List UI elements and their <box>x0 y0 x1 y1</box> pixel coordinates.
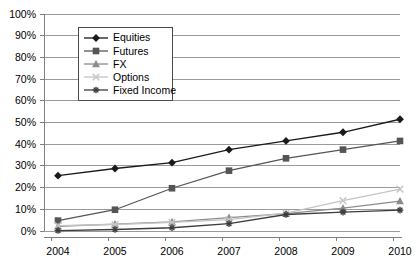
data-point-marker-square <box>397 138 404 145</box>
chart-plot-area <box>0 0 418 276</box>
y-axis-tick-label: 100% <box>0 9 36 20</box>
data-point-marker-asterisk <box>340 209 347 216</box>
y-axis-tick-label: 80% <box>0 52 36 63</box>
legend-marker-square-icon <box>83 45 109 57</box>
legend-item-equities[interactable]: Equities <box>83 31 167 44</box>
legend-label: Equities <box>113 32 150 43</box>
line-chart: 0%10%20%30%40%50%60%70%80%90%100% 200420… <box>0 0 418 276</box>
legend-label: Fixed Income <box>113 85 176 96</box>
data-point-marker-diamond <box>396 115 404 123</box>
data-point-marker-diamond <box>54 172 62 180</box>
x-axis-tick-label: 2009 <box>318 246 368 257</box>
legend-marker-triangle-icon <box>83 58 109 70</box>
data-series-group <box>54 115 404 234</box>
legend-item-futures[interactable]: Futures <box>83 44 167 57</box>
data-point-marker-triangle <box>396 197 404 204</box>
data-point-marker-square <box>340 146 347 153</box>
legend-label: FX <box>113 59 126 70</box>
data-point-marker-asterisk <box>93 87 100 94</box>
data-point-marker-asterisk <box>55 227 62 234</box>
data-point-marker-square <box>93 47 100 54</box>
y-axis-tick-label: 60% <box>0 95 36 106</box>
legend-label: Futures <box>113 46 149 57</box>
x-axis-tick-label: 2006 <box>147 246 197 257</box>
y-axis-tick-label: 40% <box>0 139 36 150</box>
data-point-marker-square <box>283 155 290 162</box>
x-axis-tick-label: 2005 <box>90 246 140 257</box>
y-axis-tick-label: 10% <box>0 204 36 215</box>
data-point-marker-diamond <box>92 34 100 42</box>
chart-legend: EquitiesFuturesFXOptionsFixed Income <box>78 27 173 101</box>
data-point-marker-square <box>112 206 119 213</box>
y-axis-tick-label: 0% <box>0 226 36 237</box>
legend-item-fixed-income[interactable]: Fixed Income <box>83 84 167 97</box>
data-point-marker-diamond <box>168 159 176 167</box>
data-point-marker-asterisk <box>397 207 404 214</box>
x-axis-tick-label: 2010 <box>375 246 418 257</box>
data-point-marker-diamond <box>282 137 290 145</box>
data-point-marker-square <box>226 167 233 174</box>
data-point-marker-square <box>169 185 176 192</box>
x-axis-tick-label: 2007 <box>204 246 254 257</box>
x-axis-tick-label: 2004 <box>33 246 83 257</box>
y-axis-tick-label: 70% <box>0 74 36 85</box>
legend-label: Options <box>113 72 149 83</box>
data-point-marker-asterisk <box>226 220 233 227</box>
legend-marker-x-icon <box>83 71 109 83</box>
data-point-marker-diamond <box>339 128 347 136</box>
legend-item-options[interactable]: Options <box>83 71 167 84</box>
legend-marker-asterisk-icon <box>83 84 109 96</box>
y-axis-tick-label: 30% <box>0 160 36 171</box>
data-point-marker-asterisk <box>112 226 119 233</box>
data-point-marker-asterisk <box>283 211 290 218</box>
legend-marker-diamond-icon <box>83 32 109 44</box>
x-axis-tick-label: 2008 <box>261 246 311 257</box>
data-point-marker-diamond <box>225 146 233 154</box>
y-axis-tick-label: 20% <box>0 182 36 193</box>
y-axis-tick-label: 50% <box>0 117 36 128</box>
data-point-marker-asterisk <box>169 224 176 231</box>
y-axis-tick-label: 90% <box>0 30 36 41</box>
legend-item-fx[interactable]: FX <box>83 57 167 70</box>
